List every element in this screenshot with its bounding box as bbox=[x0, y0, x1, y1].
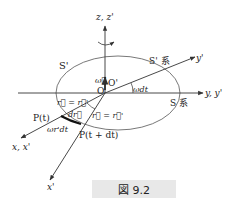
rotation-arrow-icon bbox=[98, 42, 114, 45]
p-t-label: P(t) bbox=[33, 113, 50, 123]
arc-length-label: ωr'dt bbox=[47, 125, 69, 134]
x-axis-label: x, x' bbox=[12, 142, 30, 152]
p-t-dt-label: P(t + dt) bbox=[79, 130, 118, 140]
s-system-label: S 系 bbox=[170, 98, 188, 108]
z-axis-label: z, z' bbox=[95, 12, 114, 22]
angle-label: ωdt bbox=[133, 85, 149, 94]
y-prime-label: y' bbox=[195, 53, 204, 63]
r-equality-label-2: r⃗ = r⃗' bbox=[92, 111, 123, 120]
figure-caption: 図 9.2 bbox=[92, 180, 176, 198]
r-equality-label-1: r⃗ = r⃗' bbox=[57, 98, 88, 107]
origin-label: O bbox=[97, 86, 104, 96]
rotating-frame-diagram: z, z' S' ω⃗ O O' ωdt S' 系 y' y, y' S 系 r… bbox=[0, 0, 237, 205]
omega-label: ω⃗ bbox=[95, 76, 107, 85]
s-prime-region-label: S' bbox=[59, 60, 69, 71]
x-prime-label: x' bbox=[47, 182, 55, 192]
y-axis-label: y, y' bbox=[204, 88, 222, 98]
s-prime-system-label: S' 系 bbox=[149, 56, 170, 66]
dr-label: dr⃗ bbox=[68, 110, 82, 119]
origin-prime-label: O' bbox=[108, 78, 118, 88]
